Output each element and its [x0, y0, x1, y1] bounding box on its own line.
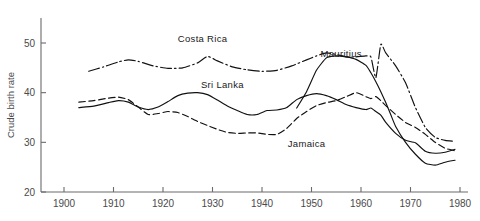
x-tick-label: 1900 — [53, 198, 76, 209]
x-tick-label: 1930 — [201, 198, 224, 209]
line-chart: 2030405019001910192019301940195019601970… — [0, 0, 480, 221]
series-line-costa-rica — [89, 44, 455, 141]
series-label-sri-lanka: Sri Lanka — [201, 79, 244, 90]
chart-container: 2030405019001910192019301940195019601970… — [0, 0, 480, 221]
series-line-jamaica — [79, 93, 455, 151]
series-label-jamaica: Jamaica — [288, 138, 326, 149]
series-label-mauritius: Mauritius — [321, 48, 362, 59]
y-axis-title: Crude birth rate — [5, 72, 16, 138]
series-labels: Costa RicaMauritiusSri LankaJamaica — [178, 33, 362, 149]
y-tick-label: 30 — [24, 137, 36, 148]
axis-titles: Crude birth rate — [5, 72, 16, 138]
series-curves — [79, 44, 455, 165]
x-tick-label: 1920 — [152, 198, 175, 209]
y-tick-label: 20 — [24, 187, 36, 198]
series-line-sri-lanka — [79, 93, 455, 154]
x-tick-label: 1940 — [251, 198, 274, 209]
axes: 2030405019001910192019301940195019601970… — [24, 18, 472, 209]
y-tick-label: 50 — [24, 38, 36, 49]
x-tick-label: 1980 — [449, 198, 472, 209]
x-tick-label: 1960 — [350, 198, 373, 209]
x-tick-label: 1950 — [300, 198, 323, 209]
y-tick-label: 40 — [24, 87, 36, 98]
x-tick-label: 1910 — [102, 198, 125, 209]
series-label-costa-rica: Costa Rica — [178, 33, 228, 44]
x-tick-label: 1970 — [399, 198, 422, 209]
